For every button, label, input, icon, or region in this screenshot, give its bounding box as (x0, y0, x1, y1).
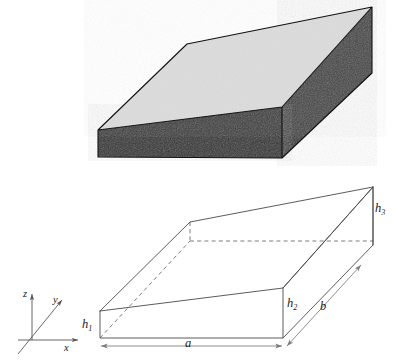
wire-top-face (100, 187, 373, 311)
hidden-edge-diagonal (100, 241, 190, 338)
wire-right-face (283, 187, 373, 338)
label-b: b (320, 299, 326, 313)
labelled-wireframe-wedge: h1 h2 h3 a b (82, 187, 385, 350)
axis-triad: z y x (18, 288, 78, 354)
label-h1: h1 (82, 317, 92, 333)
shaded-solid-wedge (98, 7, 372, 158)
x-axis-label: x (63, 342, 69, 353)
wire-front-face (100, 288, 283, 338)
wire-right-diagonal (283, 187, 373, 288)
label-a: a (185, 336, 191, 350)
label-h3: h3 (375, 201, 385, 217)
y-axis-label: y (52, 294, 58, 305)
y-axis-line (18, 300, 62, 354)
label-h2: h2 (287, 296, 297, 312)
figure-canvas: h1 h2 h3 a b z y x (0, 0, 396, 360)
z-axis-label: z (22, 288, 27, 299)
figure-root: h1 h2 h3 a b z y x (0, 0, 396, 360)
